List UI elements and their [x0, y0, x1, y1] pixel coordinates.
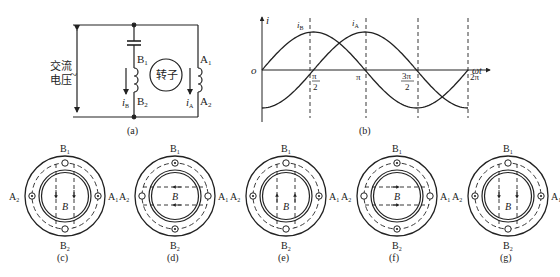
conductor-idle-icon: [505, 160, 511, 166]
svg-text:3π: 3π: [402, 71, 412, 81]
label-top: B1: [392, 143, 402, 155]
label-bottom: B2: [392, 240, 402, 252]
rotor-outer-ring: [260, 170, 312, 222]
field-label: B: [394, 191, 400, 202]
stator-diagram-f: BB1B2A2A1(f): [341, 143, 450, 264]
stator-outer-ring: [468, 156, 548, 236]
stator-outer-ring: [246, 156, 326, 236]
label-left: A2: [341, 191, 351, 203]
conductor-idle-icon: [139, 193, 145, 199]
tick-2pi: 2π: [470, 72, 480, 82]
label-top: B1: [60, 143, 70, 155]
label-top: B1: [281, 143, 291, 155]
conductor-idle-icon: [205, 193, 211, 199]
tick-3pi-over-2: 3π 2: [401, 71, 414, 92]
rotor-label: 转子: [156, 68, 178, 82]
stator-diagram-d: BB1B2A2A1(d): [119, 143, 228, 264]
voltage-label-line2: 电压: [50, 74, 72, 87]
diagram-canvas: 交流 电压 ~ 转子 B1 B2 iB A1 A2 iA (a) i ωt o …: [0, 0, 560, 277]
rotor-outer-ring: [482, 170, 534, 222]
grid-lines: [310, 18, 468, 118]
svg-text:π: π: [312, 71, 317, 81]
conductor-idle-icon: [361, 193, 367, 199]
field-label: B: [283, 201, 289, 212]
svg-text:2: 2: [405, 82, 410, 92]
origin-label: o: [251, 64, 257, 76]
label-left: A2: [452, 191, 462, 203]
junction-dot: [132, 23, 136, 27]
curve-label-ib: iB: [297, 20, 304, 31]
svg-text:2: 2: [313, 82, 318, 92]
circuit-labels: 交流 电压 ~ 转子 B1 B2 iB A1 A2 iA (a): [50, 53, 212, 137]
rotor-inner-ring: [263, 173, 310, 220]
caption: (e): [278, 252, 289, 264]
coil-b-top-label: B1: [137, 53, 148, 67]
y-axis-label: i: [266, 14, 269, 26]
conductor-idle-icon: [283, 160, 289, 166]
field-label: B: [172, 191, 178, 202]
field-label: B: [505, 201, 511, 212]
caption: (d): [167, 252, 179, 264]
conductor-idle-icon: [62, 226, 68, 232]
rotor-inner-ring: [485, 173, 532, 220]
conductor-idle-icon: [427, 193, 433, 199]
coil-b-bottom-label: B2: [137, 95, 148, 109]
label-bottom: B2: [170, 240, 180, 252]
coil-a-bottom-label: A2: [200, 95, 212, 109]
caption-a: (a): [127, 125, 138, 137]
waveform-chart: [262, 17, 490, 122]
label-top: B1: [503, 143, 513, 155]
tick-pi: π: [356, 72, 361, 82]
coil-a-inductor: [198, 68, 202, 92]
voltage-label-line1: 交流: [50, 59, 72, 73]
conductor-idle-icon: [505, 226, 511, 232]
caption-b: (b): [359, 125, 371, 137]
current-ib-label: iB: [122, 96, 129, 109]
stator-outer-ring: [25, 156, 105, 236]
coil-a-top-label: A1: [200, 53, 212, 67]
field-label: B: [62, 201, 68, 212]
label-right: A1: [551, 191, 560, 203]
label-right: A1: [329, 191, 339, 203]
label-right: A1: [440, 191, 450, 203]
label-left: A2: [230, 191, 240, 203]
conductor-idle-icon: [283, 226, 289, 232]
label-bottom: B2: [60, 240, 70, 252]
conductor-idle-icon: [62, 160, 68, 166]
caption: (f): [389, 252, 399, 264]
label-left: A2: [119, 191, 129, 203]
label-top: B1: [170, 143, 180, 155]
label-bottom: B2: [281, 240, 291, 252]
caption: (g): [500, 252, 512, 264]
rotor-inner-ring: [42, 173, 89, 220]
ac-symbol: ~: [70, 67, 77, 82]
junction-dot: [132, 115, 136, 119]
label-right: A1: [108, 191, 118, 203]
caption: (c): [57, 252, 68, 264]
curve-label-ia: iA: [352, 18, 360, 29]
label-left: A2: [9, 191, 19, 203]
rotor-outer-ring: [39, 170, 91, 222]
stator-diagram-g: BB1B2A2A1(g): [452, 143, 560, 264]
current-ia-label: iA: [186, 96, 194, 109]
stator-diagram-e: BB1B2A2A1(e): [230, 143, 339, 264]
stator-diagrams: BB1B2A2A1(c)BB1B2A2A1(d)BB1B2A2A1(e)BB1B…: [9, 143, 560, 264]
stator-diagram-c: BB1B2A2A1(c): [9, 143, 118, 264]
tick-pi-over-2: π 2: [312, 71, 320, 92]
label-right: A1: [218, 191, 228, 203]
label-bottom: B2: [503, 240, 513, 252]
coil-b-inductor: [134, 68, 138, 92]
